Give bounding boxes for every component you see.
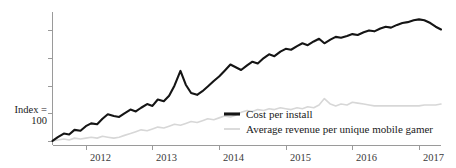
y-axis-label-line1: Index = <box>15 104 48 115</box>
y-axis-label-line2: 100 <box>31 115 47 126</box>
x-axis-tick-labels: 201220132014201520162017 <box>90 152 444 163</box>
x-tick-label-2016: 2016 <box>356 152 377 163</box>
x-axis-ticks <box>87 146 420 150</box>
y-axis-ticks <box>48 31 53 142</box>
x-tick-label-2017: 2017 <box>423 152 444 163</box>
x-tick-label-2014: 2014 <box>223 152 245 163</box>
x-tick-label-2012: 2012 <box>90 152 111 163</box>
x-tick-label-2013: 2013 <box>156 152 177 163</box>
x-tick-label-2015: 2015 <box>290 152 311 163</box>
legend-label-cost-per-install: Cost per install <box>246 108 313 120</box>
line-chart: Index = 100 201220132014201520162017 Cos… <box>0 0 456 168</box>
legend-label-average-revenue: Average revenue per unique mobile gamer <box>246 123 433 135</box>
legend: Cost per install Average revenue per uni… <box>224 108 433 135</box>
chart-figure: Index = 100 201220132014201520162017 Cos… <box>0 0 456 168</box>
y-axis-label: Index = 100 <box>15 104 48 126</box>
